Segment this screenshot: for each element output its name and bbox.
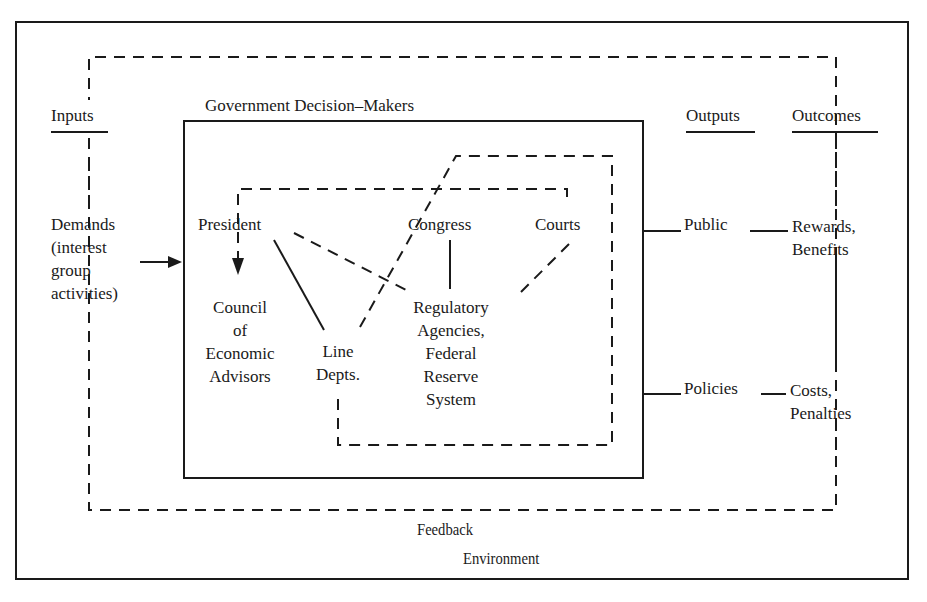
courts-to-regulatory-dash [521,244,569,292]
arrow-to-council-icon [232,258,244,275]
congress-label: Congress [408,215,471,235]
line-depts-label: Line Depts. [306,340,370,386]
inputs-header: Inputs [51,106,94,126]
policies-output-label: Policies [684,379,738,399]
environment-label: Environment [463,549,539,569]
public-output-label: Public [684,215,727,235]
government-box-label: Government Decision–Makers [205,96,414,116]
president-courts-loop [238,189,567,262]
outcomes-header: Outcomes [792,106,861,126]
demands-label: Demands (interest group activities) [51,213,118,305]
arrow-to-government-icon [168,256,182,268]
regulatory-label: Regulatory Agencies, Federal Reserve Sys… [395,296,507,411]
courts-label: Courts [535,215,580,235]
rewards-outcome-label: Rewards, Benefits [792,215,856,261]
outputs-header: Outputs [686,106,740,126]
political-system-diagram: Inputs Outputs Outcomes Government Decis… [0,0,927,602]
feedback-label: Feedback [417,520,473,540]
costs-outcome-label: Costs, Penalties [790,379,851,425]
president-to-regulatory-dash [294,233,408,291]
president-label: President [198,215,261,235]
council-label: Council of Economic Advisors [190,296,290,388]
